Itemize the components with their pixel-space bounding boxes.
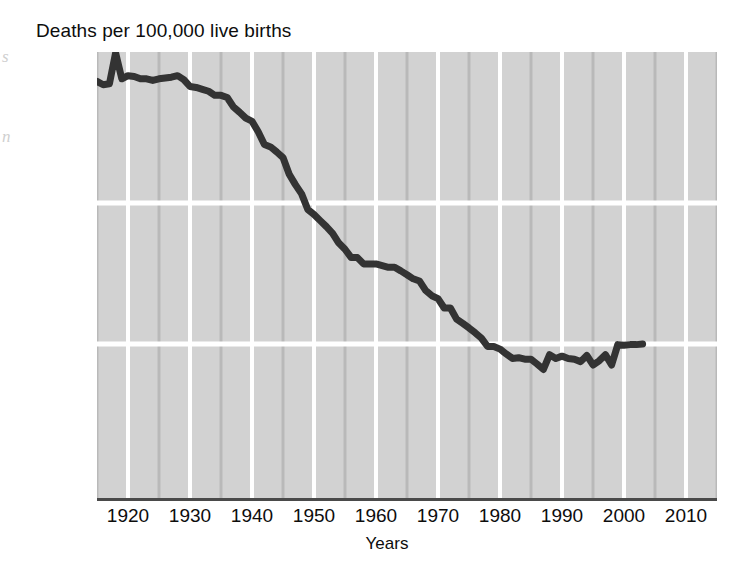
y-axis-labels: 1,000100100 [0,0,92,568]
x-tick-label: 2010 [665,505,707,527]
x-tick-label: 1990 [541,505,583,527]
x-tick-label: 1940 [231,505,273,527]
x-tick-label: 1950 [293,505,335,527]
chart-figure: Deaths per 100,000 live births 1,0001001… [0,0,740,568]
x-tick-label: 1960 [355,505,397,527]
x-tick-label: 1980 [479,505,521,527]
scan-artifact-1: s [2,48,9,65]
plot-svg [97,52,717,498]
x-tick-label: 1970 [417,505,459,527]
x-axis-line [97,498,717,501]
x-tick-label: 1930 [169,505,211,527]
x-tick-label: 2000 [603,505,645,527]
x-tick-label: 1920 [107,505,149,527]
x-axis-title: Years [0,534,740,554]
plot-area [97,52,717,498]
scan-artifact-2: n [2,128,11,145]
x-axis-title-label: Years [366,534,409,553]
x-axis-labels: 1920193019401950196019701980199020002010 [0,505,740,535]
